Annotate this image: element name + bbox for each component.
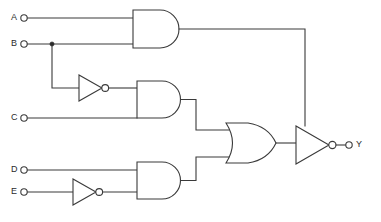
- not-gate-3[interactable]: [296, 126, 336, 164]
- not-gate-2[interactable]: [73, 179, 103, 205]
- input-label-a: A: [11, 12, 17, 22]
- logic-circuit-schematic: A B C D E: [0, 0, 381, 222]
- not-gate-3-bubble: [329, 141, 336, 148]
- not-gate-1-bubble: [102, 85, 109, 92]
- not-gate-2-body: [73, 179, 96, 205]
- input-terminal-e[interactable]: [21, 189, 27, 195]
- input-terminal-c[interactable]: [21, 115, 27, 121]
- junction-dot-b: [50, 42, 54, 46]
- wire-and3-to-or1: [181, 157, 230, 181]
- or-gate-1[interactable]: [226, 123, 276, 163]
- input-terminal-b[interactable]: [21, 41, 27, 47]
- and-gate-2[interactable]: [137, 81, 181, 118]
- not-gate-1[interactable]: [79, 75, 109, 101]
- and-gate-1[interactable]: [133, 10, 179, 48]
- not-gate-1-body: [79, 75, 102, 101]
- wire-and1-to-not3: [179, 29, 305, 126]
- not-gate-2-bubble: [96, 189, 103, 196]
- input-label-e: E: [11, 186, 17, 196]
- output-label-y: Y: [356, 139, 362, 149]
- input-terminal-a[interactable]: [21, 15, 27, 21]
- input-label-d: D: [11, 164, 18, 174]
- wire-b-branch-to-not1: [52, 44, 79, 88]
- output-terminal-y[interactable]: [346, 142, 352, 148]
- input-label-c: C: [11, 112, 18, 122]
- and-gate-1-body: [133, 10, 179, 48]
- and-gate-2-body: [137, 81, 181, 118]
- input-terminal-d[interactable]: [21, 167, 27, 173]
- not-gate-3-body: [296, 126, 329, 164]
- circuit-diagram-canvas: A B C D E: [0, 0, 381, 222]
- or-gate-1-body: [226, 123, 276, 163]
- wire-and2-to-or1: [181, 100, 230, 131]
- and-gate-3[interactable]: [137, 162, 181, 199]
- input-label-b: B: [11, 38, 17, 48]
- and-gate-3-body: [137, 162, 181, 199]
